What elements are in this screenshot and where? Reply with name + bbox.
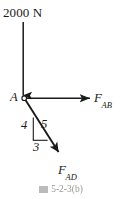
figure-mark-icon: [39, 186, 48, 193]
joint-marker-a: [22, 96, 27, 101]
applied-load-label: 2000 N: [3, 6, 42, 19]
figure-caption-text: 5-2-3(b): [51, 184, 83, 194]
force-diagram-figure: 2000 N A FAB FAD 4 5 3 5-2-3(b): [0, 0, 122, 199]
slope-hypotenuse-label: 5: [41, 118, 47, 131]
force-ab-subscript: AB: [101, 100, 111, 110]
joint-label-a: A: [10, 91, 18, 104]
force-ad-subscript: AD: [65, 172, 76, 182]
force-ad-label: FAD: [58, 163, 77, 179]
figure-caption: 5-2-3(b): [0, 185, 122, 195]
slope-vertical-label: 4: [21, 119, 27, 132]
slope-horizontal-label: 3: [33, 141, 39, 154]
force-ab-label: FAB: [94, 91, 112, 107]
